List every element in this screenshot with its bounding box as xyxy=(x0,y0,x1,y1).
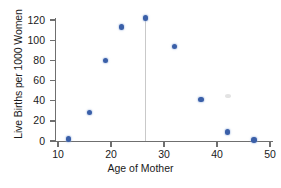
y-tick-label-40: 40 xyxy=(11,95,45,106)
y-tick-label-60: 60 xyxy=(11,75,45,86)
x-tick-30 xyxy=(163,142,164,147)
y-tick-label-80: 80 xyxy=(11,55,45,66)
data-point xyxy=(66,136,71,141)
y-tick-100 xyxy=(50,40,55,41)
data-point xyxy=(87,110,92,115)
x-tick-label-50: 50 xyxy=(255,149,281,160)
y-tick-60 xyxy=(50,80,55,81)
x-tick-label-10: 10 xyxy=(43,149,73,160)
x-axis-title: Age of Mother xyxy=(0,162,281,174)
x-tick-label-30: 30 xyxy=(149,149,179,160)
plot-area: 020406080100120 1020304050 xyxy=(0,0,281,188)
x-tick-20 xyxy=(110,142,111,147)
y-tick-20 xyxy=(50,120,55,121)
x-tick-50 xyxy=(269,142,270,147)
y-tick-label-20: 20 xyxy=(11,115,45,126)
data-point xyxy=(251,137,256,142)
scatter-chart: Live Births per 1000 Women 0204060801001… xyxy=(0,0,281,188)
y-tick-0 xyxy=(50,140,55,141)
data-point xyxy=(198,97,203,102)
data-point xyxy=(172,44,177,49)
x-tick-label-20: 20 xyxy=(96,149,126,160)
x-tick-label-40: 40 xyxy=(202,149,232,160)
x-tick-10 xyxy=(57,142,58,147)
data-point xyxy=(225,129,230,134)
y-tick-label-100: 100 xyxy=(11,35,45,46)
scan-artifact-smudge xyxy=(225,94,231,98)
y-tick-label-120: 120 xyxy=(11,15,45,26)
y-tick-120 xyxy=(50,19,55,20)
y-tick-label-0: 0 xyxy=(11,136,45,147)
data-point xyxy=(119,24,124,29)
peak-reference-line xyxy=(145,18,146,141)
y-axis-line xyxy=(55,18,56,142)
y-tick-40 xyxy=(50,100,55,101)
data-point xyxy=(143,15,148,20)
data-point xyxy=(103,58,108,63)
y-tick-80 xyxy=(50,60,55,61)
x-tick-40 xyxy=(216,142,217,147)
